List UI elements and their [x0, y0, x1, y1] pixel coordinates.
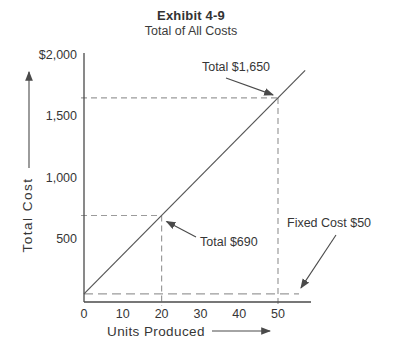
x-axis-title: Units Produced	[107, 324, 205, 339]
x-tick-label: 10	[116, 307, 130, 321]
y-tick-label: 500	[56, 232, 77, 246]
annotation-total-1650: Total $1,650	[202, 60, 270, 74]
annotation-arrow-total-690	[167, 221, 196, 237]
x-tick-label: 0	[81, 307, 88, 321]
x-tick-label: 50	[271, 307, 285, 321]
annotation-arrow-fixed-cost	[301, 235, 336, 288]
y-tick-label: $2,000	[39, 48, 77, 62]
x-tick-label: 30	[193, 307, 207, 321]
y-tick-label: 1,500	[46, 109, 77, 123]
x-tick-label: 20	[155, 307, 169, 321]
total-cost-chart: $2,0001,5001,00050001020304050Total $1,6…	[0, 0, 394, 355]
annotation-arrow-total-1650	[226, 78, 273, 95]
y-axis-title: Total Cost	[20, 177, 35, 252]
total-cost-line	[84, 70, 305, 293]
exhibit-4-9-figure: Exhibit 4-9 Total of All Costs $2,0001,5…	[0, 0, 394, 355]
annotation-total-690: Total $690	[200, 235, 258, 249]
annotation-fixed-cost: Fixed Cost $50	[287, 216, 371, 230]
x-tick-label: 40	[232, 307, 246, 321]
y-tick-label: 1,000	[46, 171, 77, 185]
